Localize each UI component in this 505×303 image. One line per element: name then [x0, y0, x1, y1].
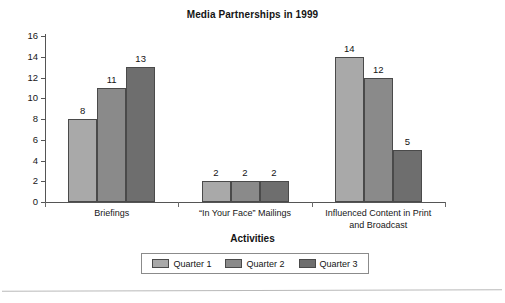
legend-swatch-icon [152, 259, 169, 268]
bar-value-label: 5 [385, 136, 430, 147]
x-axis-category-label-line: Briefings [41, 208, 182, 220]
x-axis-tick-mark [45, 202, 46, 207]
bar [393, 150, 422, 202]
y-axis-tick-label: 14 [0, 51, 38, 62]
bar [231, 181, 260, 202]
legend-label: Quarter 2 [246, 259, 284, 269]
bar [260, 181, 289, 202]
legend-label: Quarter 3 [320, 259, 358, 269]
x-axis-tick-mark [445, 202, 446, 207]
bar [126, 67, 155, 202]
y-axis-tick-label: 16 [0, 30, 38, 41]
legend-swatch-icon [299, 259, 316, 268]
x-axis-line [45, 202, 445, 203]
bar-value-label: 14 [327, 43, 372, 54]
plot-area: 8111322214125 [45, 36, 445, 202]
chart-legend: Quarter 1Quarter 2Quarter 3 [141, 253, 369, 274]
bar-value-label: 2 [252, 167, 297, 178]
chart-title: Media Partnerships in 1999 [0, 9, 505, 20]
y-axis-tick-label: 6 [0, 134, 38, 145]
legend-label: Quarter 1 [173, 259, 211, 269]
legend-item: Quarter 2 [225, 259, 284, 269]
y-axis-tick-label: 0 [0, 196, 38, 207]
bar [202, 181, 231, 202]
x-axis-category-label-line: Influenced Content in Print [308, 208, 449, 220]
bar-chart: Media Partnerships in 1999 0246810121416… [0, 0, 505, 303]
bar [68, 119, 97, 202]
legend-swatch-icon [225, 259, 242, 268]
x-axis-category-label-line: “In Your Face” Mailings [174, 208, 315, 220]
y-axis-tick-label: 4 [0, 155, 38, 166]
x-axis-category-label-line: and Broadcast [308, 220, 449, 232]
bar-value-label: 12 [356, 64, 401, 75]
legend-item: Quarter 3 [299, 259, 358, 269]
x-axis-category-label: Influenced Content in Printand Broadcast [308, 208, 449, 231]
page-rule-divider [2, 289, 502, 292]
x-axis-title: Activities [0, 233, 505, 244]
y-axis-tick-label: 12 [0, 72, 38, 83]
x-axis-category-label: “In Your Face” Mailings [174, 208, 315, 220]
bar-value-label: 13 [118, 53, 163, 64]
bar [335, 57, 364, 202]
x-axis-category-label: Briefings [41, 208, 182, 220]
legend-item: Quarter 1 [152, 259, 211, 269]
x-axis-tick-mark [312, 202, 313, 207]
bar [97, 88, 126, 202]
y-axis-tick-label: 2 [0, 175, 38, 186]
x-axis-tick-mark [178, 202, 179, 207]
y-axis-tick-label: 8 [0, 113, 38, 124]
y-axis-tick-label: 10 [0, 92, 38, 103]
